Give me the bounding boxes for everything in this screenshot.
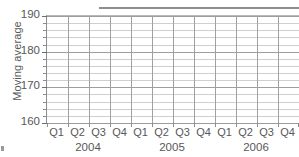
x-axis-quarter-label: Q3: [172, 126, 193, 139]
x-axis-year-label: 2004: [46, 140, 130, 154]
y-axis-minor-tick: [43, 30, 47, 31]
gridline-vertical: [131, 16, 132, 123]
gridline-vertical: [236, 16, 237, 123]
y-axis-tick-label: 170: [14, 80, 40, 92]
x-axis-quarter-labels: Q1Q2Q3Q4Q1Q2Q3Q4Q1Q2Q3Q4: [46, 126, 299, 141]
x-axis-quarter-label: Q4: [109, 126, 130, 139]
gridline-vertical: [173, 16, 174, 123]
gridlines: [47, 16, 299, 123]
top-horizontal-rule: [99, 7, 299, 9]
x-axis-year-labels: 200420052006: [46, 140, 299, 156]
y-axis-tick: [42, 52, 47, 53]
y-axis-tick-label: 190: [14, 9, 40, 21]
moving-average-chart-figure: Moving average 190180170160 Q1Q2Q3Q4Q1Q2…: [0, 0, 299, 157]
x-axis-quarter-label: Q2: [235, 126, 256, 139]
gridline-vertical: [152, 16, 153, 123]
gridline-vertical: [194, 16, 195, 123]
x-axis-quarter-label: Q3: [88, 126, 109, 139]
y-axis-minor-tick: [43, 80, 47, 81]
plot-area: [46, 15, 299, 124]
y-axis-minor-tick: [43, 109, 47, 110]
y-axis-minor-tick: [43, 37, 47, 38]
y-axis-minor-tick: [43, 102, 47, 103]
gridline-vertical: [278, 16, 279, 123]
y-axis-minor-tick: [43, 94, 47, 95]
y-axis-minor-tick: [43, 66, 47, 67]
y-axis-minor-tick: [43, 73, 47, 74]
page-edge-artifact: [1, 146, 4, 151]
x-axis-quarter-label: Q4: [277, 126, 298, 139]
y-axis-minor-tick: [43, 59, 47, 60]
y-axis-tick-label: 160: [14, 116, 40, 128]
x-axis-quarter-label: Q2: [67, 126, 88, 139]
x-axis-quarter-label: Q4: [193, 126, 214, 139]
x-axis-quarter-label: Q2: [151, 126, 172, 139]
x-axis-quarter-label: Q1: [130, 126, 151, 139]
y-axis-tick-labels: 190180170160: [14, 0, 40, 157]
y-axis-minor-tick: [43, 45, 47, 46]
y-axis-tick-label: 180: [14, 45, 40, 57]
y-axis-tick: [42, 87, 47, 88]
y-axis-minor-tick: [43, 23, 47, 24]
gridline-vertical: [68, 16, 69, 123]
y-axis-minor-tick: [43, 116, 47, 117]
y-axis-tick: [42, 16, 47, 17]
gridline-vertical: [110, 16, 111, 123]
gridline-vertical: [257, 16, 258, 123]
x-axis-quarter-label: Q3: [256, 126, 277, 139]
gridline-vertical: [89, 16, 90, 123]
x-axis-year-label: 2006: [214, 140, 298, 154]
x-axis-year-label: 2005: [130, 140, 214, 154]
x-axis-quarter-label: Q1: [214, 126, 235, 139]
gridline-vertical: [215, 16, 216, 123]
x-axis-quarter-label: Q1: [46, 126, 67, 139]
